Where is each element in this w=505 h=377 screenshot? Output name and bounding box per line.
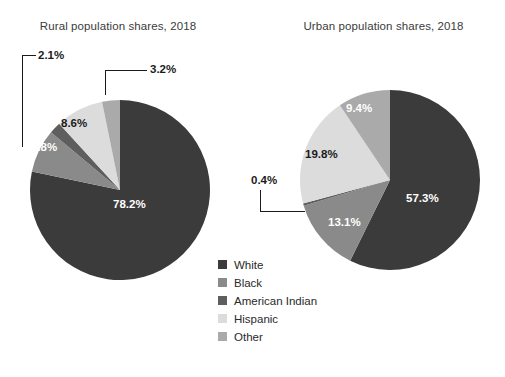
figure-canvas: Rural population shares, 2018 Urban popu…	[0, 0, 505, 377]
urban-pie-chart: 57.3% 13.1% 19.8% 9.4% 0.4%	[265, 60, 505, 285]
legend-item: White	[218, 256, 317, 273]
rural-label-other: 3.2%	[150, 63, 176, 75]
urban-leader-american-indian-vertical	[260, 190, 261, 212]
legend-item: American Indian	[218, 292, 317, 309]
legend-item: Black	[218, 274, 317, 291]
legend-swatch-icon	[218, 260, 227, 269]
rural-leader-american-indian-horizontal	[22, 55, 36, 56]
legend: WhiteBlackAmerican IndianHispanicOther	[218, 256, 317, 346]
urban-pie-svg	[265, 60, 505, 285]
urban-leader-american-indian-horizontal	[260, 211, 305, 212]
legend-item-label: Other	[234, 331, 263, 343]
legend-swatch-icon	[218, 314, 227, 323]
legend-item: Hispanic	[218, 310, 317, 327]
urban-label-black: 13.1%	[328, 216, 361, 228]
legend-item-label: Hispanic	[234, 313, 278, 325]
legend-item: Other	[218, 328, 317, 345]
rural-pie-svg	[0, 45, 240, 290]
urban-label-american-indian: 0.4%	[251, 174, 277, 186]
legend-swatch-icon	[218, 278, 227, 287]
legend-swatch-icon	[218, 296, 227, 305]
rural-leader-other-horizontal	[105, 70, 147, 71]
rural-label-black: 7.8%	[31, 141, 57, 153]
rural-label-hispanic: 8.6%	[61, 117, 87, 129]
rural-chart-title: Rural population shares, 2018	[0, 20, 236, 32]
rural-leader-other-vertical	[105, 70, 106, 95]
urban-label-other: 9.4%	[346, 102, 372, 114]
legend-item-label: American Indian	[234, 295, 317, 307]
urban-label-hispanic: 19.8%	[305, 148, 338, 160]
urban-chart-title: Urban population shares, 2018	[262, 20, 505, 32]
urban-label-white: 57.3%	[406, 192, 439, 204]
legend-swatch-icon	[218, 332, 227, 341]
rural-label-white: 78.2%	[113, 198, 146, 210]
rural-leader-american-indian-vertical	[22, 55, 23, 147]
legend-item-label: White	[234, 259, 263, 271]
rural-label-american-indian: 2.1%	[38, 49, 64, 61]
legend-item-label: Black	[234, 277, 262, 289]
rural-pie-chart: 78.2% 7.8% 8.6% 2.1% 3.2%	[0, 45, 240, 290]
